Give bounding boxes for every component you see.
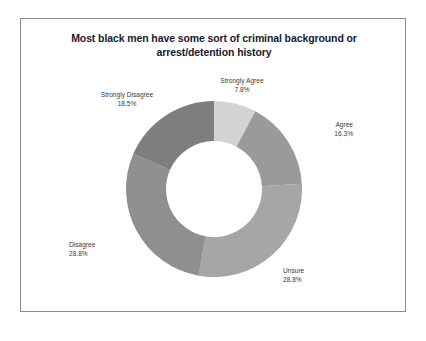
donut-slice-group	[126, 101, 302, 277]
donut-slice-unsure	[199, 184, 302, 277]
slice-label-agree: Agree 16.3%	[289, 121, 353, 138]
slice-label-value: 28.8%	[283, 276, 347, 285]
slice-label-strongly-disagree: Strongly Disagree 18.5%	[79, 91, 175, 108]
slice-label-unsure: Unsure 28.8%	[283, 267, 347, 284]
slice-label-value: 18.5%	[79, 100, 175, 109]
slice-label-value: 16.3%	[289, 130, 353, 139]
slice-label-disagree: Disagree 28.8%	[69, 241, 139, 258]
slice-label-name: Agree	[289, 121, 353, 130]
slice-label-name: Strongly Agree	[202, 77, 282, 86]
slice-label-name: Strongly Disagree	[79, 91, 175, 100]
donut-chart: Strongly Agree 7.8% Agree 16.3% Unsure 2…	[21, 19, 407, 313]
slice-label-value: 7.8%	[202, 86, 282, 95]
chart-frame: Most black men have some sort of crimina…	[20, 18, 406, 312]
slice-label-name: Unsure	[283, 267, 347, 276]
slice-label-name: Disagree	[69, 241, 139, 250]
slice-label-value: 28.8%	[69, 250, 139, 259]
donut-chart-svg	[126, 101, 302, 277]
slice-label-strongly-agree: Strongly Agree 7.8%	[202, 77, 282, 94]
